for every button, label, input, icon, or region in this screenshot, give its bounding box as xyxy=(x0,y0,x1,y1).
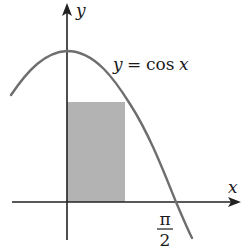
curve-label-x: x xyxy=(179,54,189,74)
tick-label-pi-over-2: π 2 xyxy=(157,209,173,250)
curve-label: y = cos x xyxy=(112,54,189,74)
tick-denominator: 2 xyxy=(160,230,171,250)
curve-label-y: y xyxy=(112,54,123,74)
tick-numerator: π xyxy=(159,209,170,229)
y-axis-label: y xyxy=(75,0,86,20)
curve-label-equals: = xyxy=(127,54,141,74)
shaded-rectangle xyxy=(67,102,125,202)
x-axis-label: x xyxy=(228,177,238,197)
cosine-diagram: y x y = cos x π 2 xyxy=(0,0,245,251)
curve-label-cos: cos xyxy=(146,54,174,74)
